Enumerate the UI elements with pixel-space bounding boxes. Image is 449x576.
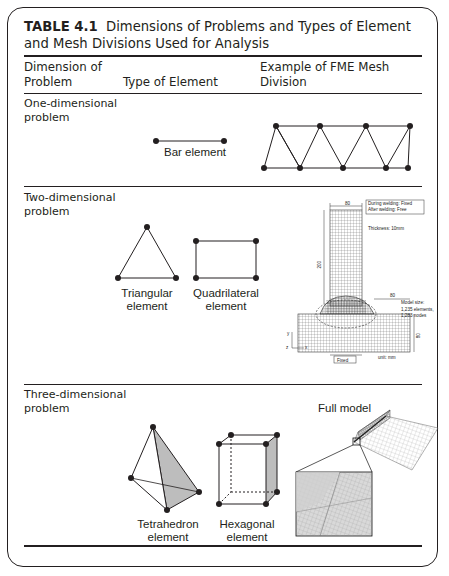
during-welding-note: During welding: Fixed <box>368 201 412 207</box>
label-line: element <box>130 531 206 544</box>
fixed-label: Fixed <box>337 358 348 364</box>
column-header-dimension: Dimension of Problem <box>24 60 102 90</box>
tetrahedron-element-diagram <box>125 422 205 514</box>
unit-note: unit: mm <box>378 355 396 361</box>
hexagonal-element-label: Hexagonal element <box>207 518 287 544</box>
row-label-line: problem <box>24 402 134 416</box>
3d-full-model-mesh <box>290 402 440 542</box>
label-line: element <box>207 531 287 544</box>
triangular-element-diagram <box>112 222 182 284</box>
axis-y-label: y <box>287 331 289 337</box>
label-line: Tetrahedron <box>130 518 206 531</box>
column-header-line: Example of FME Mesh <box>260 60 389 75</box>
row-label-line: problem <box>24 111 134 125</box>
truss-mesh-diagram <box>258 118 418 174</box>
dim-right-80: 80 <box>416 333 422 338</box>
column-header-line: Problem <box>24 75 102 90</box>
label-line: element <box>112 300 182 313</box>
table-bottom-rule <box>24 545 422 547</box>
row-label-line: Two-dimensional <box>24 191 134 205</box>
table-caption: TABLE 4.1 Dimensions of Problems and Typ… <box>24 18 434 52</box>
dim-mid-80: 80 <box>390 293 395 299</box>
quadrilateral-element-label: Quadrilateral element <box>186 287 266 313</box>
row-divider <box>24 186 422 187</box>
header-bottom-rule <box>24 93 422 94</box>
row-label-line: Three-dimensional <box>24 388 134 402</box>
weld-fem-mesh-diagram <box>290 196 440 376</box>
row-label-one-dimensional: One-dimensional problem <box>24 97 134 124</box>
row-divider <box>24 384 422 385</box>
thickness-note: Thickness: 10mm <box>368 226 404 232</box>
triangular-element-label: Triangular element <box>112 287 182 313</box>
dim-top-80: 80 <box>345 201 350 207</box>
row-label-line: problem <box>24 205 134 219</box>
quadrilateral-element-diagram <box>190 236 262 284</box>
model-nodes-count: 1,283 nodes <box>401 313 426 319</box>
column-header-element-type: Type of Element <box>123 75 218 90</box>
row-label-three-dimensional: Three-dimensional problem <box>24 388 134 415</box>
column-header-line: Division <box>260 75 389 90</box>
hexahedron-element-diagram <box>213 432 283 514</box>
model-size-label: Model size: <box>401 300 424 306</box>
row-label-two-dimensional: Two-dimensional problem <box>24 191 134 218</box>
bar-element-diagram <box>150 136 230 146</box>
dim-left-200: 200 <box>317 261 323 269</box>
row-label-line: One-dimensional <box>24 97 134 111</box>
column-header-line: Dimension of <box>24 60 102 75</box>
table-number: TABLE 4.1 <box>24 19 98 34</box>
after-welding-note: After welding: Free <box>368 207 407 213</box>
label-line: element <box>186 300 266 313</box>
label-line: Quadrilateral <box>186 287 266 300</box>
tetrahedron-element-label: Tetrahedron element <box>130 518 206 544</box>
label-line: Hexagonal <box>207 518 287 531</box>
bar-element-label: Bar element <box>160 146 230 159</box>
column-header-mesh-example: Example of FME Mesh Division <box>260 60 389 90</box>
label-line: Triangular <box>112 287 182 300</box>
model-elements-count: 1,235 elements, <box>401 307 434 313</box>
axis-z-label: z <box>286 345 288 351</box>
header-top-rule <box>24 55 422 57</box>
axis-x-label: x <box>305 345 307 351</box>
